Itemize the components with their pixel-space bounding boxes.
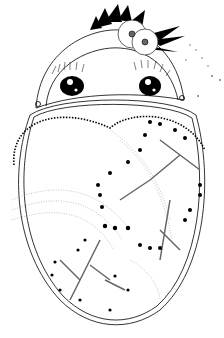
flowers [118,20,158,55]
sparkle-trail [185,44,221,97]
eyes [60,76,161,96]
body-outline [19,100,205,325]
illustration-canvas [0,0,224,338]
eyelashes [52,60,170,76]
coloring-page-illustration [0,0,224,338]
branch-clusters [60,140,200,300]
branch-dots [50,120,202,312]
dotted-arcs [12,130,172,300]
